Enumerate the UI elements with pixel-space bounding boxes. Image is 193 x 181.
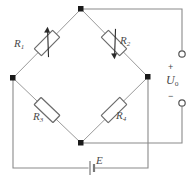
polarity-plus-sign: + — [168, 63, 173, 72]
node-left — [10, 75, 16, 81]
polarity-minus-sign: − — [168, 92, 173, 101]
resistor-r1-body — [34, 30, 59, 56]
resistor-r2-label: R2 — [120, 35, 130, 46]
wire-bottom-to-output-negative — [81, 107, 182, 143]
resistor-r3-label: R3 — [33, 111, 43, 122]
node-right — [145, 74, 151, 80]
outer-wiring — [13, 9, 182, 168]
resistor-r1-label: R1 — [14, 38, 24, 49]
junction-nodes — [10, 6, 151, 146]
wire-top-to-output-positive — [81, 9, 182, 50]
wire-left-to-source — [13, 78, 88, 168]
output-terminal-positive[interactable] — [179, 51, 185, 57]
node-top — [78, 6, 84, 12]
resistor-r4-label: R4 — [116, 110, 126, 121]
node-bottom — [78, 140, 84, 146]
circuit-diagram: R1 R2 R3 R4 Uo + − E — [0, 0, 193, 181]
source-label: E — [96, 155, 103, 166]
bridge-arms — [13, 9, 148, 143]
output-voltage-label: Uo — [166, 74, 178, 86]
output-terminals[interactable] — [179, 51, 185, 106]
battery-symbol — [90, 161, 94, 175]
output-terminal-negative[interactable] — [179, 100, 185, 106]
